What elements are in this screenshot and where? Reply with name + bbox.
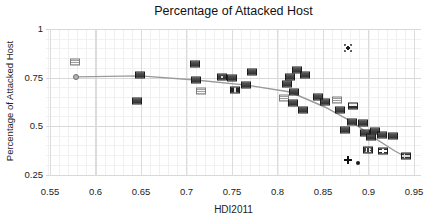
country-flag-marker [340,127,350,134]
country-flag-marker [332,97,342,104]
country-flag-marker [288,99,298,106]
chart-title: Percentage of Attacked Host [46,4,421,18]
x-tick-label: 0.7 [180,187,193,197]
country-flag-marker [282,81,292,88]
x-axis-label: HDI2011 [46,204,421,215]
chart-figure: Percentage of Attacked Host Percentage o… [0,0,434,221]
country-flag-marker [132,97,142,104]
country-flag-marker [366,134,376,141]
y-tick-label: 1 [12,24,43,34]
country-flag-marker [335,107,345,114]
country-flag-marker [401,153,411,160]
x-tick-label: 0.55 [41,187,60,197]
circle-marker [73,74,79,80]
country-flag-marker [320,98,330,105]
x-tick-label: 0.95 [405,187,424,197]
country-flag-marker [358,120,368,127]
y-axis-label: Percentage of Attacked Host [4,41,15,161]
country-flag-marker [300,71,310,78]
country-flag-marker [135,71,145,78]
country-flag-marker [363,147,373,154]
x-tick-label: 0.8 [271,187,284,197]
y-tick-label: 0.5 [12,121,43,131]
star-marker [343,44,352,53]
plot-area [46,29,421,176]
country-flag-marker [241,82,251,89]
country-flag-marker [378,148,388,155]
country-flag-marker [217,73,227,80]
country-flag-marker [289,89,299,96]
country-flag-marker [285,73,295,80]
x-tick-label: 0.75 [223,187,242,197]
country-flag-marker [190,60,200,67]
trend-line [46,29,421,176]
x-tick-label: 0.6 [89,187,102,197]
country-flag-marker [247,69,257,76]
dot-marker [356,161,360,165]
x-tick-label: 0.9 [362,187,375,197]
country-flag-marker [196,88,206,95]
country-flag-marker [377,131,387,138]
country-flag-marker [70,58,80,65]
x-tick-label: 0.85 [314,187,333,197]
country-flag-marker [347,118,357,125]
country-flag-marker [388,133,398,140]
country-flag-marker [230,86,240,93]
y-tick-label: 0.75 [12,73,43,83]
country-flag-marker [227,75,237,82]
country-flag-marker [191,77,201,84]
x-tick-label: 0.65 [132,187,151,197]
country-flag-marker [298,107,308,114]
country-flag-marker [348,103,358,110]
y-tick-label: 0.25 [12,170,43,180]
plus-marker [344,156,352,164]
